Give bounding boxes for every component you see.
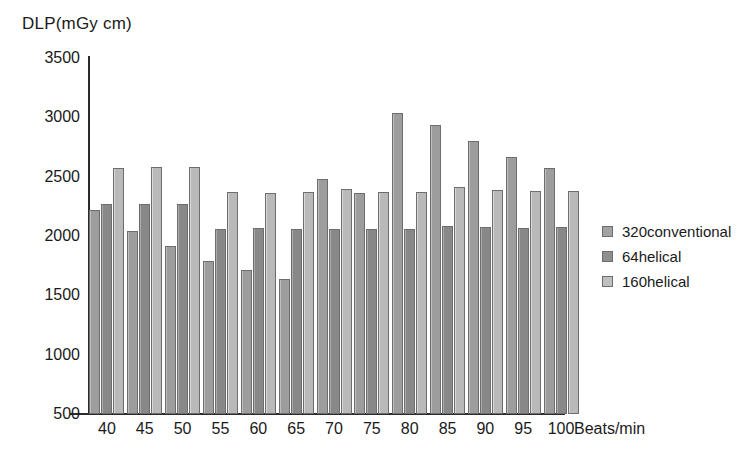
bar-320conventional-70 <box>317 179 328 414</box>
plot-area <box>88 58 580 414</box>
bar-64helical-40 <box>101 204 112 414</box>
bar-160helical-100 <box>568 191 579 414</box>
bar-64helical-95 <box>518 228 529 414</box>
bar-320conventional-80 <box>392 113 403 414</box>
bar-group <box>354 58 389 414</box>
bar-64helical-90 <box>480 227 491 414</box>
bar-64helical-60 <box>253 228 264 414</box>
bar-group <box>506 58 541 414</box>
bar-160helical-45 <box>151 167 162 414</box>
bar-64helical-45 <box>139 204 150 414</box>
bar-320conventional-55 <box>203 261 214 414</box>
legend-item-320conventional: 320conventional <box>602 219 748 244</box>
bar-group <box>317 58 352 414</box>
y-axis-tick: 2000 <box>18 228 80 244</box>
bar-group <box>241 58 276 414</box>
y-axis-tick: 3500 <box>18 50 80 66</box>
bar-group <box>544 58 579 414</box>
bar-320conventional-60 <box>241 270 252 414</box>
bar-64helical-50 <box>177 204 188 414</box>
bar-group <box>203 58 238 414</box>
chart-legend: 320conventional64helical160helical <box>602 219 748 294</box>
legend-item-label: 64helical <box>622 249 681 265</box>
legend-item-160helical: 160helical <box>602 269 748 294</box>
legend-swatch-icon <box>602 276 613 287</box>
bar-320conventional-95 <box>506 157 517 415</box>
bar-64helical-70 <box>329 229 340 414</box>
bar-64helical-100 <box>556 227 567 414</box>
bar-group <box>392 58 427 414</box>
y-axis-tick: 3000 <box>18 109 80 125</box>
bar-160helical-60 <box>265 193 276 414</box>
legend-item-64helical: 64helical <box>602 244 748 269</box>
y-axis-tick: 500 <box>18 406 80 422</box>
legend-item-label: 320conventional <box>622 224 731 240</box>
legend-item-label: 160helical <box>622 274 690 290</box>
bar-group <box>127 58 162 414</box>
bar-group <box>430 58 465 414</box>
bar-160helical-85 <box>454 187 465 414</box>
bar-chart-figure: DLP(mGy cm) 350030002500200015001000500 … <box>0 0 750 461</box>
bar-320conventional-90 <box>468 141 479 414</box>
bar-160helical-90 <box>492 190 503 414</box>
y-axis-tick: 1000 <box>18 347 80 363</box>
legend-swatch-icon <box>602 226 613 237</box>
bar-160helical-65 <box>303 192 314 414</box>
bar-64helical-85 <box>442 226 453 414</box>
bar-320conventional-100 <box>544 168 555 414</box>
bar-group <box>89 58 124 414</box>
y-axis-tick: 1500 <box>18 287 80 303</box>
bar-320conventional-85 <box>430 125 441 414</box>
y-axis-tick: 2500 <box>18 169 80 185</box>
bar-64helical-55 <box>215 229 226 414</box>
bar-320conventional-65 <box>279 279 290 414</box>
bar-320conventional-40 <box>89 210 100 414</box>
bar-160helical-70 <box>341 189 352 414</box>
bar-group <box>468 58 503 414</box>
bar-320conventional-45 <box>127 231 138 414</box>
bar-64helical-75 <box>366 229 377 414</box>
bar-320conventional-50 <box>165 246 176 415</box>
bar-64helical-80 <box>404 229 415 414</box>
legend-swatch-icon <box>602 251 613 262</box>
bar-160helical-80 <box>416 192 427 415</box>
bar-160helical-95 <box>530 191 541 414</box>
bar-320conventional-75 <box>354 193 365 414</box>
bar-160helical-55 <box>227 192 238 415</box>
bar-160helical-40 <box>113 168 124 414</box>
bar-64helical-65 <box>291 229 302 414</box>
bar-160helical-75 <box>378 192 389 415</box>
bar-group <box>279 58 314 414</box>
y-axis-title: DLP(mGy cm) <box>22 14 132 34</box>
bar-160helical-50 <box>189 167 200 414</box>
x-axis-title: Beats/min <box>574 420 645 438</box>
bar-group <box>165 58 200 414</box>
